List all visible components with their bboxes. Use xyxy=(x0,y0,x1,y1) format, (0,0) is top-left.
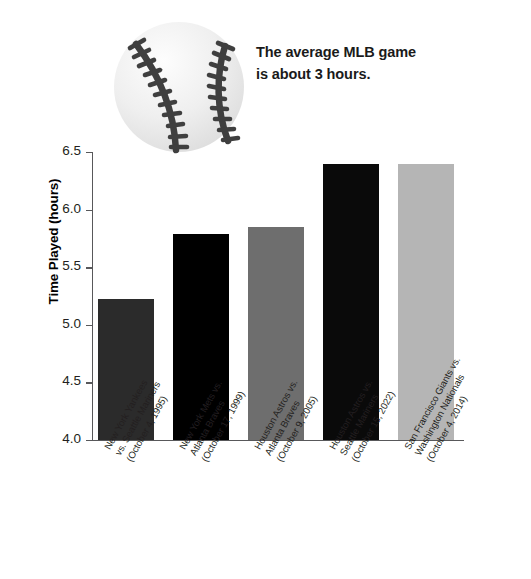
bar-chart-figure: The average MLB game is about 3 hours. T… xyxy=(0,0,531,579)
y-tick-label-5-5: 5.5 xyxy=(62,258,81,273)
baseball-icon xyxy=(112,17,246,157)
y-tick-6-0: 6.0 xyxy=(86,210,92,211)
y-tick-label-4-5: 4.5 xyxy=(62,373,81,388)
y-tick-label-5-0: 5.0 xyxy=(62,316,81,331)
y-tick-5-0: 5.0 xyxy=(86,325,92,326)
y-tick-4-5: 4.5 xyxy=(86,382,92,383)
annotation-line-1: The average MLB game xyxy=(256,41,506,63)
y-tick-4-0: 4.0 xyxy=(86,440,92,441)
y-tick-6-5: 6.5 xyxy=(86,152,92,153)
y-axis-title: Time Played (hours) xyxy=(46,142,61,342)
annotation-line-2: is about 3 hours. xyxy=(256,63,506,85)
y-axis-line xyxy=(92,152,93,440)
chart-annotation: The average MLB game is about 3 hours. xyxy=(256,41,506,85)
y-tick-label-6-0: 6.0 xyxy=(62,201,81,216)
y-tick-5-5: 5.5 xyxy=(86,267,92,268)
y-tick-label-4-0: 4.0 xyxy=(62,431,81,446)
y-tick-label-6-5: 6.5 xyxy=(62,143,81,158)
